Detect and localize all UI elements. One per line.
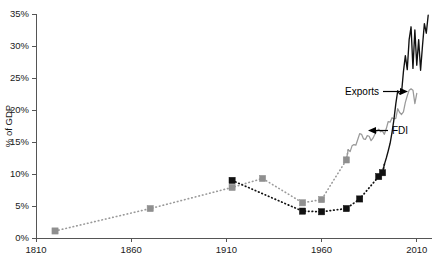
y-axis-title: % of GDP [3,105,14,147]
y-tick-label: 30% [10,40,30,51]
data-point-marker-exports [229,184,235,190]
annotation-label-fdi: FDI [392,125,408,136]
series-exports-dotted-line [55,150,348,231]
data-point-marker-exports [343,157,349,163]
x-tick-label: 1810 [25,244,46,255]
annotation-arrowhead-exports [400,88,408,95]
x-tick-label: 1860 [121,244,142,255]
data-point-marker-fdi [357,196,363,202]
data-point-marker-exports [318,197,324,203]
x-tick-label: 1910 [216,244,237,255]
annotation-label-exports: Exports [345,86,379,97]
y-tick-label: 10% [10,168,30,179]
chart-container: 0%5%10%15%20%25%30%35% 18101860191019602… [0,0,437,268]
data-point-marker-exports [147,205,153,211]
y-tick-label: 0% [15,232,29,243]
chart-plot: 0%5%10%15%20%25%30%35% 18101860191019602… [0,0,437,268]
data-point-marker-fdi [379,170,385,176]
data-point-marker-fdi [229,177,235,183]
series-fdi-solid-line [383,15,429,172]
y-tick-label: 5% [15,200,29,211]
x-axis: 18101860191019602010 [25,238,432,255]
x-tick-label: 2010 [406,244,427,255]
data-point-marker-fdi [299,208,305,214]
y-tick-label: 25% [10,72,30,83]
data-point-marker-fdi [318,209,324,215]
annotation-arrowhead-fdi [368,127,376,134]
data-series-group [52,15,428,234]
x-tick-label: 1960 [311,244,332,255]
series-fdi-dotted-line [232,164,384,211]
y-tick-label: 35% [10,8,30,19]
data-point-marker-fdi [343,205,349,211]
data-point-marker-exports [299,200,305,206]
data-point-marker-exports [259,175,265,181]
data-point-marker-exports [52,228,58,234]
